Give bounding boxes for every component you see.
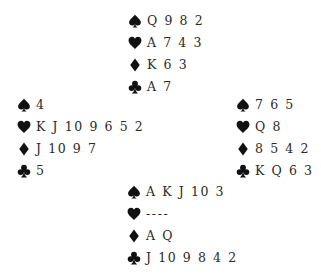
- north-spades-cards: Q 9 8 2: [147, 10, 204, 32]
- south-diamonds-cards: A Q: [146, 225, 174, 247]
- east-diamonds-cards: 8 5 4 2: [255, 138, 310, 160]
- south-hearts-row: ----: [127, 203, 238, 225]
- spade-icon: [236, 98, 250, 112]
- west-clubs-row: 5: [17, 160, 144, 182]
- club-icon: [17, 164, 31, 178]
- club-icon: [236, 164, 250, 178]
- spade-icon: [127, 185, 141, 199]
- east-hearts-cards: Q 8: [255, 116, 282, 138]
- north-clubs-cards: A 7: [147, 76, 173, 98]
- west-clubs-cards: 5: [36, 160, 46, 182]
- west-spades-cards: 4: [36, 94, 46, 116]
- diamond-icon: [128, 58, 142, 72]
- north-diamonds-cards: K 6 3: [147, 54, 188, 76]
- south-spades-cards: A K J 10 3: [146, 181, 225, 203]
- diamond-icon: [17, 142, 31, 156]
- south-hand: A K J 10 3 ---- A Q J 10 9 8 4 2: [127, 181, 238, 269]
- heart-icon: [127, 207, 141, 221]
- north-hearts-row: A 7 4 3: [128, 32, 204, 54]
- heart-icon: [17, 120, 31, 134]
- east-hearts-row: Q 8: [236, 116, 314, 138]
- north-hearts-cards: A 7 4 3: [147, 32, 203, 54]
- spade-icon: [128, 14, 142, 28]
- south-clubs-cards: J 10 9 8 4 2: [146, 247, 238, 269]
- west-spades-row: 4: [17, 94, 144, 116]
- heart-icon: [236, 120, 250, 134]
- south-spades-row: A K J 10 3: [127, 181, 238, 203]
- west-diamonds-row: J 10 9 7: [17, 138, 144, 160]
- heart-icon: [128, 36, 142, 50]
- south-clubs-row: J 10 9 8 4 2: [127, 247, 238, 269]
- north-spades-row: Q 9 8 2: [128, 10, 204, 32]
- east-spades-row: 7 6 5: [236, 94, 314, 116]
- south-diamonds-row: A Q: [127, 225, 238, 247]
- east-spades-cards: 7 6 5: [255, 94, 295, 116]
- south-hearts-cards: ----: [146, 203, 169, 225]
- east-hand: 7 6 5 Q 8 8 5 4 2 K Q 6 3: [236, 94, 314, 182]
- diamond-icon: [236, 142, 250, 156]
- diamond-icon: [127, 229, 141, 243]
- west-hand: 4 K J 10 9 6 5 2 J 10 9 7 5: [17, 94, 144, 182]
- east-diamonds-row: 8 5 4 2: [236, 138, 314, 160]
- north-diamonds-row: K 6 3: [128, 54, 204, 76]
- club-icon: [128, 80, 142, 94]
- spade-icon: [17, 98, 31, 112]
- north-hand: Q 9 8 2 A 7 4 3 K 6 3 A 7: [128, 10, 204, 98]
- east-clubs-row: K Q 6 3: [236, 160, 314, 182]
- east-clubs-cards: K Q 6 3: [255, 160, 314, 182]
- west-hearts-cards: K J 10 9 6 5 2: [36, 116, 144, 138]
- club-icon: [127, 251, 141, 265]
- west-hearts-row: K J 10 9 6 5 2: [17, 116, 144, 138]
- west-diamonds-cards: J 10 9 7: [36, 138, 98, 160]
